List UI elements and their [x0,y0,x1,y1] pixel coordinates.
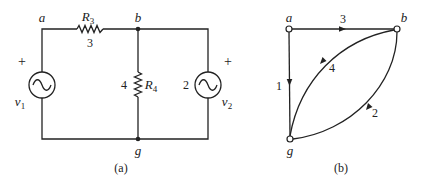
node-label-b: b [135,10,142,25]
circuit-figure: a R3 3 b + v1 4 R4 2 + v2 g (a) a 3 b 1 [0,0,422,184]
source-label-v1: v1 [15,94,25,111]
graph-label-g: g [287,143,294,158]
node-b-dot [136,27,141,32]
wire-bottom [42,98,208,139]
graph-node-a [286,26,292,32]
graph-label-a: a [286,10,293,25]
branch-label-2: 2 [183,78,189,92]
graph-node-b [394,26,400,32]
source-label-v2: v2 [222,94,232,111]
resistor-r3 [77,26,103,33]
sine-wave-icon [199,80,217,91]
wire-top-mid [103,29,208,72]
edge-label-4: 4 [329,61,335,75]
node-label-a: a [39,10,46,25]
panel-b-graph: a 3 b 1 4 2 g (b) [276,10,408,175]
edge-2 [293,32,397,139]
caption-a: (a) [114,161,127,175]
resistor-label-r3: R3 [81,9,95,26]
arrow-icon [320,57,327,64]
resistor-r4 [135,72,142,97]
edge-label-2: 2 [372,106,378,120]
sine-wave-icon [33,80,51,91]
ac-source-v1 [29,72,55,98]
resistor-value-r4: 4 [121,78,127,92]
node-label-g: g [135,143,142,158]
resistor-label-r4: R4 [144,77,158,94]
arrow-icon [339,26,346,32]
node-g-dot [136,137,141,142]
caption-b: (b) [334,161,348,175]
graph-label-b: b [401,10,408,25]
polarity-plus-v2: + [224,54,232,69]
edge-label-1: 1 [276,79,282,93]
edge-4 [290,30,394,136]
graph-node-g [287,136,293,142]
edge-label-3: 3 [340,12,346,26]
panel-a-circuit: a R3 3 b + v1 4 R4 2 + v2 g (a) [15,9,232,175]
ac-source-v2 [195,72,221,98]
resistor-value-r3: 3 [87,36,93,50]
polarity-plus-v1: + [18,54,26,69]
wire-top-left [42,29,77,72]
figure-svg: a R3 3 b + v1 4 R4 2 + v2 g (a) a 3 b 1 [0,0,422,184]
arrow-icon [287,79,293,86]
